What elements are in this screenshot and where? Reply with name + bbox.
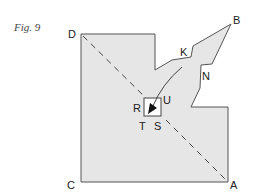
figure-9-diagram: Fig. 9 D B K N R U T S C A — [0, 0, 253, 196]
label-d: D — [68, 28, 76, 40]
label-n: N — [202, 70, 210, 82]
label-k: K — [180, 46, 188, 58]
label-c: C — [67, 179, 75, 191]
label-t: T — [139, 120, 146, 132]
label-r: R — [133, 102, 141, 114]
figure-caption: Fig. 9 — [13, 21, 41, 33]
label-u: U — [163, 94, 171, 106]
label-s: S — [154, 120, 161, 132]
label-b: B — [233, 14, 240, 26]
label-a: A — [230, 179, 238, 191]
